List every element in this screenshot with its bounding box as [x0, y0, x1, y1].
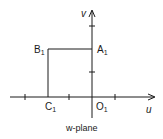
v-axis-label: v — [81, 8, 87, 19]
w-plane-diagram: v u A1 B1 C1 O1 w-plane — [0, 0, 163, 139]
point-label-o1: O1 — [96, 101, 108, 113]
u-axis-label: u — [146, 104, 152, 115]
diagram-caption: w-plane — [65, 123, 98, 133]
point-label-c1: C1 — [45, 101, 56, 113]
point-label-a1: A1 — [97, 44, 108, 56]
point-label-b1: B1 — [34, 44, 45, 56]
